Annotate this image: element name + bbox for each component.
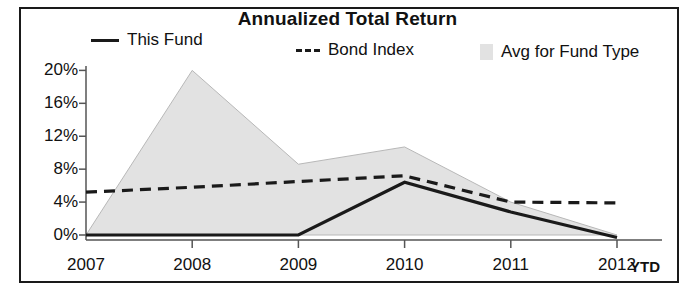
legend-label: Bond Index [328,40,414,60]
solid-line-icon [91,39,119,42]
x-axis-tick-label: 2010 [386,255,424,275]
legend-item-avg-for-fund-type: Avg for Fund Type [480,42,639,62]
y-axis-tick-label: 8% [53,159,78,179]
x-axis-tick-label: 2007 [67,255,105,275]
y-axis-tick-label: 12% [44,126,78,146]
y-axis-tick-label: 0% [53,225,78,245]
x-axis-tick-label: 2008 [173,255,211,275]
legend-label: This Fund [127,30,203,50]
x-axis-tick-label: 2009 [279,255,317,275]
dashed-line-icon [296,49,320,52]
legend-item-this-fund: This Fund [91,30,203,50]
filled-square-icon [480,44,493,60]
y-axis-tick-label: 16% [44,93,78,113]
y-axis-labels: 0%4%8%12%16%20% [26,0,78,296]
x-axis-ytd-label: YTD [630,258,660,275]
y-axis-tick-label: 4% [53,192,78,212]
chart-legend: This Fund Bond Index Avg for Fund Type [0,28,695,54]
chart-title: Annualized Total Return [0,8,695,30]
legend-item-bond-index: Bond Index [296,40,414,60]
chart-screenshot: Annualized Total Return This Fund Bond I… [0,0,695,296]
legend-label: Avg for Fund Type [501,42,639,62]
y-axis-tick-label: 20% [44,60,78,80]
x-axis-tick-label: 2011 [493,255,530,275]
